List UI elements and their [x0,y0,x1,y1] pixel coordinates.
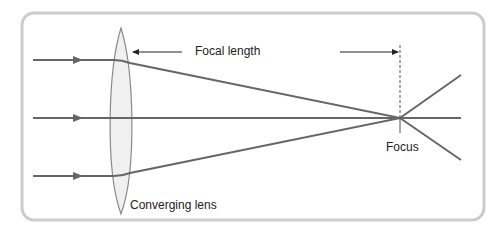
focal-length-label: Focal length [195,44,260,58]
diagram-frame-visible [23,14,485,116]
lens-label: Converging lens [130,198,217,212]
top-ray-refracted [114,60,461,118]
focus-label: Focus [386,140,419,154]
optics-diagram [0,0,497,234]
converging-lens [110,28,132,214]
